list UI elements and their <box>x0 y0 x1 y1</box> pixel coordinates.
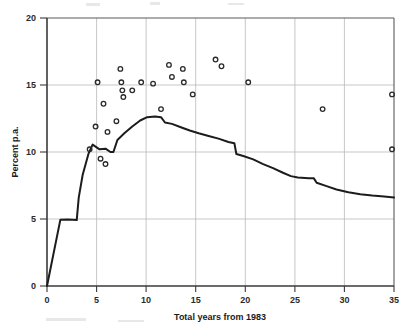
x-axis-title: Total years from 1983 <box>174 312 266 322</box>
x-tick-label-30: 30 <box>339 295 349 305</box>
chart-figure: 0 5 10 15 20 0 5 10 15 20 25 30 35 Total… <box>0 0 413 331</box>
chart-background <box>0 0 413 331</box>
x-tick-label-5: 5 <box>94 295 99 305</box>
x-tick-label-10: 10 <box>141 295 151 305</box>
y-tick-label-0: 0 <box>31 281 36 291</box>
y-axis-title: Percent p.a. <box>10 126 20 177</box>
y-tick-label-10: 10 <box>26 147 36 157</box>
x-tick-label-0: 0 <box>44 295 49 305</box>
y-tick-label-20: 20 <box>26 13 36 23</box>
x-tick-label-15: 15 <box>191 295 201 305</box>
x-tick-label-20: 20 <box>240 295 250 305</box>
x-tick-label-35: 35 <box>389 295 399 305</box>
x-tick-label-25: 25 <box>290 295 300 305</box>
scatter-line-chart: 0 5 10 15 20 0 5 10 15 20 25 30 35 Total… <box>0 0 413 331</box>
y-tick-label-15: 15 <box>26 80 36 90</box>
y-tick-label-5: 5 <box>31 214 36 224</box>
